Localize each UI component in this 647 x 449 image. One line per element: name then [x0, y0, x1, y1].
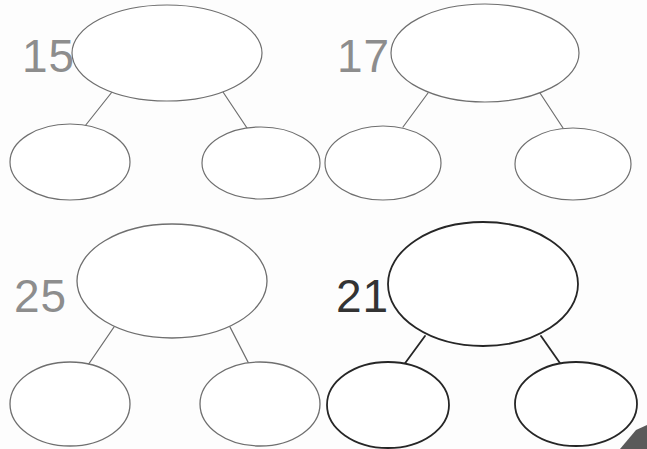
- bond-21-left-connector: [403, 336, 425, 366]
- bond-21-right-connector: [541, 336, 562, 366]
- bond-21-whole-circle[interactable]: [388, 222, 578, 346]
- worksheet-page: 15172521: [0, 0, 647, 449]
- bond-21-right-part-circle[interactable]: [515, 362, 637, 446]
- bond-17: 17: [325, 4, 631, 200]
- bond-17-total-label: 17: [337, 30, 390, 82]
- bond-25: 25: [10, 224, 320, 446]
- bond-15-right-connector: [223, 92, 247, 128]
- bond-25-right-part-circle[interactable]: [200, 362, 320, 446]
- bond-21-total-label: 21: [336, 270, 389, 322]
- bond-17-left-part-circle[interactable]: [325, 126, 441, 200]
- bond-21-left-part-circle[interactable]: [327, 362, 449, 448]
- number-bond-canvas: 15172521: [0, 0, 647, 449]
- bond-17-whole-circle[interactable]: [391, 4, 579, 102]
- bond-25-right-connector: [230, 327, 249, 364]
- bond-17-right-connector: [540, 93, 563, 128]
- bond-21: 21: [327, 222, 637, 448]
- bond-25-whole-circle[interactable]: [77, 224, 267, 338]
- bond-25-left-connector: [88, 327, 114, 365]
- bond-17-left-connector: [403, 93, 428, 127]
- bond-15-left-connector: [85, 92, 112, 126]
- bond-15-right-part-circle[interactable]: [202, 127, 320, 199]
- bond-15-left-part-circle[interactable]: [10, 124, 130, 200]
- bond-15-whole-circle[interactable]: [72, 5, 262, 101]
- bond-25-total-label: 25: [14, 270, 67, 322]
- bond-15: 15: [10, 5, 320, 200]
- bond-17-right-part-circle[interactable]: [515, 128, 631, 200]
- bond-25-left-part-circle[interactable]: [10, 362, 130, 446]
- bond-15-total-label: 15: [22, 30, 75, 82]
